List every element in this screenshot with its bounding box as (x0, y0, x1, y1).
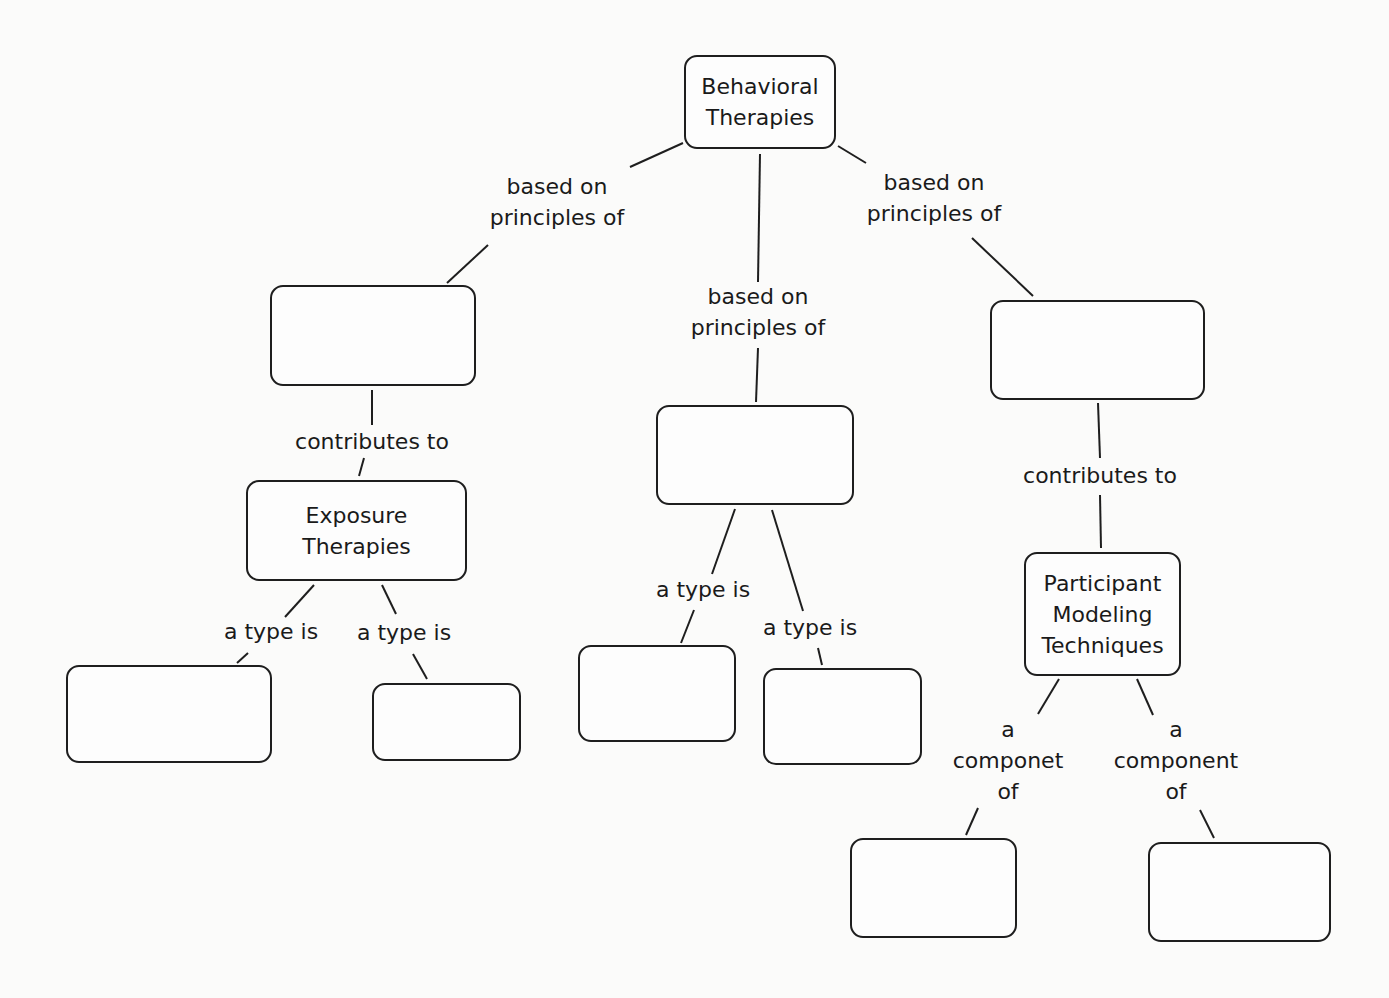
link-label-based-on-left: based on principles of (490, 171, 625, 233)
concept-node-blank-component-1[interactable] (850, 838, 1017, 938)
concept-node-exposure-therapies[interactable]: Exposure Therapies (246, 480, 467, 581)
link-label-a-componet-of: a componet of (953, 714, 1064, 807)
concept-node-behavioral-therapies[interactable]: Behavioral Therapies (684, 55, 836, 149)
concept-map: Behavioral Therapies Exposure Therapies … (0, 0, 1389, 998)
link-label-contributes-to-right: contributes to (1023, 460, 1177, 491)
link-label-a-component-of: a component of (1114, 714, 1238, 807)
link-label-based-on-middle: based on principles of (691, 281, 826, 343)
concept-node-blank-middle-type-1[interactable] (578, 645, 736, 742)
concept-node-blank-middle-type-2[interactable] (763, 668, 922, 765)
concept-node-blank-component-2[interactable] (1148, 842, 1331, 942)
link-label-contributes-to-left: contributes to (295, 426, 449, 457)
concept-node-blank-middle[interactable] (656, 405, 854, 505)
link-label-a-type-is-2: a type is (357, 617, 451, 648)
link-label-a-type-is-3: a type is (656, 574, 750, 605)
concept-node-blank-left[interactable] (270, 285, 476, 386)
link-label-a-type-is-1: a type is (224, 616, 318, 647)
concept-node-blank-exposure-type-2[interactable] (372, 683, 521, 761)
link-label-based-on-right: based on principles of (867, 167, 1002, 229)
concept-node-participant-modeling[interactable]: Participant Modeling Techniques (1024, 552, 1181, 676)
concept-node-blank-right[interactable] (990, 300, 1205, 400)
concept-node-blank-exposure-type-1[interactable] (66, 665, 272, 763)
link-label-a-type-is-4: a type is (763, 612, 857, 643)
